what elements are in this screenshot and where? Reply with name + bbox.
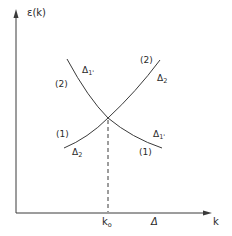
curve-delta-1prime-upper-label: Δ1': [82, 66, 94, 77]
curve-delta-2-upper-index: (2): [140, 56, 153, 65]
band-crossing-diagram: ε(k) (2) Δ1' (2) Δ2 (1) Δ2 Δ1' (1) ko Δ …: [0, 0, 232, 236]
y-axis-arrow-icon: [14, 9, 19, 18]
curve-delta-1prime-lower-label: Δ1': [153, 130, 165, 141]
x-tick-k0: ko: [102, 217, 112, 229]
curve-delta-2: [64, 60, 160, 148]
curve-delta-1prime-upper-index: (2): [55, 80, 68, 89]
curve-delta-2-lower-index: (1): [56, 130, 69, 139]
x-axis-label: k: [213, 217, 219, 227]
curve-delta-1prime-lower-index: (1): [139, 148, 152, 157]
diagram-canvas: [0, 0, 232, 236]
x-region-label-delta: Δ: [151, 217, 158, 227]
curve-delta-2-lower-label: Δ2: [72, 148, 82, 159]
y-axis-label: ε(k): [27, 8, 46, 18]
curve-delta-2-upper-label: Δ2: [157, 74, 167, 85]
x-axis-arrow-icon: [203, 211, 212, 216]
